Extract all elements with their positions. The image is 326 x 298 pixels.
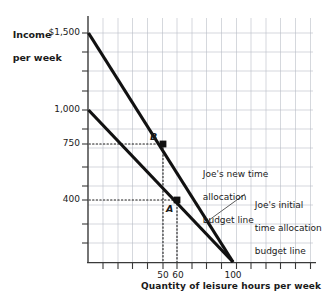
initial-budget-line-callout: Joe's initial time allocation budget lin… — [249, 188, 322, 257]
point-b-marker — [160, 141, 167, 148]
callout-initial-line2: time allocation — [255, 223, 322, 233]
x-tick-label-100: 100 — [220, 270, 246, 280]
y-tick-label-750: 750 — [38, 138, 80, 148]
x-tick-label-60: 60 — [165, 270, 191, 280]
point-a-label: A — [166, 203, 173, 214]
y-axis-title-line2: per week — [13, 52, 62, 63]
point-b-label: B — [150, 131, 157, 142]
point-a-marker — [174, 197, 181, 204]
y-axis-title: Income per week — [6, 17, 62, 63]
y-tick-label-1500: $1,500 — [38, 27, 80, 37]
callout-initial-line1: Joe's initial — [255, 200, 303, 210]
callout-new-line3: budget line — [203, 215, 254, 225]
callout-new-line2: allocation — [203, 192, 247, 202]
callout-initial-line3: budget line — [255, 246, 306, 256]
callout-new-line1: Joe's new time — [203, 169, 269, 179]
x-axis-title: Quantity of leisure hours per week — [141, 281, 321, 291]
y-axis-ticks — [82, 33, 88, 243]
y-tick-label-1000: 1,000 — [38, 104, 80, 114]
y-tick-label-400: 400 — [38, 194, 80, 204]
